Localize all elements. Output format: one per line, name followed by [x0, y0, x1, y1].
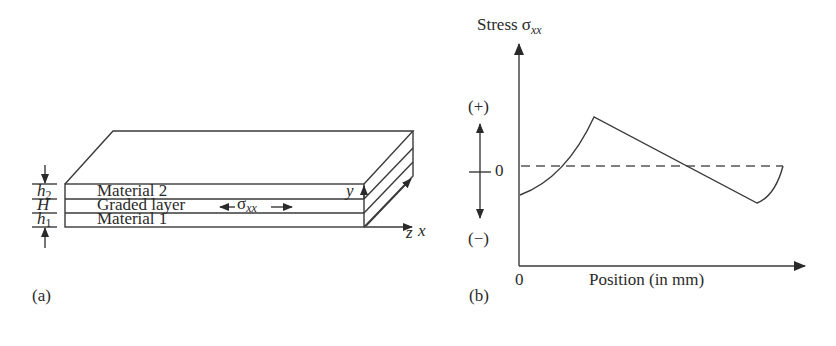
- right-face-edge: [364, 131, 413, 227]
- y-axis-title: Stress σxx: [477, 15, 542, 37]
- positive-label: (+): [468, 97, 489, 116]
- panel-b-label: (b): [469, 286, 489, 305]
- x-axis-label: x: [417, 221, 426, 240]
- stress-symbol: σxx: [237, 194, 257, 215]
- panel-b-stress-chart: (+) (−) 0 Stress σxx 0 Position (in mm) …: [468, 15, 805, 305]
- origin-label: 0: [515, 270, 524, 289]
- layer-label-material-1: Material 1: [97, 209, 167, 228]
- right-face-interface-bottom: [364, 162, 413, 213]
- top-face: [65, 131, 413, 184]
- thickness-h1: h1: [37, 209, 52, 230]
- zero-label: 0: [495, 161, 504, 180]
- z-axis-arrow: [366, 179, 411, 226]
- x-axis-title: Position (in mm): [589, 270, 704, 289]
- z-axis-label: z: [405, 223, 413, 242]
- y-axis-label: y: [344, 181, 354, 200]
- figure-canvas: Material 2 Graded layer Material 1 σxx y…: [0, 0, 836, 346]
- negative-label: (−): [468, 229, 489, 248]
- right-face-interface-top: [364, 148, 413, 199]
- stress-curve: [520, 117, 783, 203]
- panel-a-label: (a): [32, 286, 51, 305]
- panel-a-layered-block: Material 2 Graded layer Material 1 σxx y…: [32, 131, 426, 305]
